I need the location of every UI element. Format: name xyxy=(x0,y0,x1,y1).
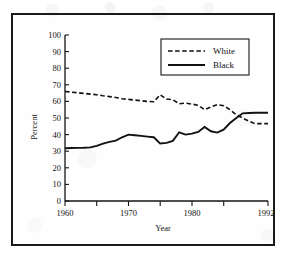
legend-label-black: Black xyxy=(213,60,234,70)
y-tick-label: 90 xyxy=(53,47,62,57)
y-tick-label: 50 xyxy=(53,113,62,123)
legend-box xyxy=(161,39,249,75)
y-tick-label: 30 xyxy=(53,146,62,156)
legend-label-white: White xyxy=(213,46,235,56)
series-line-white xyxy=(65,91,268,123)
y-tick-label: 20 xyxy=(53,163,62,173)
x-axis-tick-labels: 1960 1970 1980 1992 xyxy=(57,208,274,218)
y-tick-label: 100 xyxy=(48,30,61,40)
series-line-black xyxy=(65,113,268,149)
y-tick-label: 10 xyxy=(53,179,62,189)
y-axis-tick-labels: 100 90 80 70 60 50 40 30 20 10 0 xyxy=(48,30,61,206)
x-axis-title: Year xyxy=(155,223,171,233)
y-tick-label: 40 xyxy=(53,130,62,140)
y-tick-label: 0 xyxy=(57,196,61,206)
chart-legend: White Black xyxy=(161,39,249,75)
x-tick-label: 1970 xyxy=(120,208,137,218)
x-tick-label: 1980 xyxy=(184,208,201,218)
y-tick-label: 80 xyxy=(53,63,62,73)
y-tick-label: 60 xyxy=(53,96,62,106)
y-tick-label: 70 xyxy=(53,80,62,90)
figure-border: 100 90 80 70 60 50 40 30 20 10 0 Percent… xyxy=(11,13,275,246)
y-axis-title: Percent xyxy=(29,114,39,140)
x-axis-ticks xyxy=(65,201,268,206)
x-tick-label: 1960 xyxy=(57,208,74,218)
line-chart: 100 90 80 70 60 50 40 30 20 10 0 Percent… xyxy=(13,15,273,244)
x-tick-label: 1992 xyxy=(258,208,274,218)
